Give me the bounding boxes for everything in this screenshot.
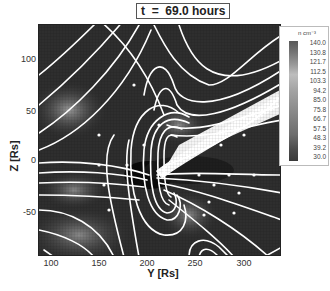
colorbar-label: 85.0 xyxy=(302,96,326,103)
colorbar-label: 130.8 xyxy=(302,49,326,56)
colorbar-label: 57.5 xyxy=(302,125,326,132)
colorbar-label: 94.2 xyxy=(302,87,326,94)
colorbar-label: 112.5 xyxy=(302,68,326,75)
colorbar-label: 75.8 xyxy=(302,106,326,113)
colorbar-label: 48.3 xyxy=(302,134,326,141)
y-tick-100: 100 xyxy=(14,54,36,64)
colorbar-label: 66.7 xyxy=(302,115,326,122)
x-tick-100: 100 xyxy=(36,258,66,268)
colorbar-unit: n cm⁻³ xyxy=(298,29,316,36)
colorbar-label: 121.7 xyxy=(302,58,326,65)
y-tick-minus50: -50 xyxy=(14,207,36,217)
colorbar-label: 140.0 xyxy=(302,39,326,46)
x-tick-150: 150 xyxy=(84,258,114,268)
x-tick-300: 300 xyxy=(229,258,259,268)
y-axis-label: Z [Rs] xyxy=(8,136,20,176)
y-tick-50: 50 xyxy=(14,106,36,116)
x-axis-label: Y [Rs] xyxy=(138,267,188,279)
colorbar-gradient xyxy=(289,41,298,161)
colorbar-label: 103.3 xyxy=(302,77,326,84)
colorbar-label: 39.2 xyxy=(302,144,326,151)
colorbar-label: 30.0 xyxy=(302,153,326,160)
colorbar-legend: n cm⁻³ 140.0 130.8 121.7 112.5 103.3 94.… xyxy=(279,26,329,166)
chart-title: t = 69.0 hours xyxy=(136,3,230,19)
density-plot-area xyxy=(38,24,281,256)
density-heatmap xyxy=(39,25,281,256)
